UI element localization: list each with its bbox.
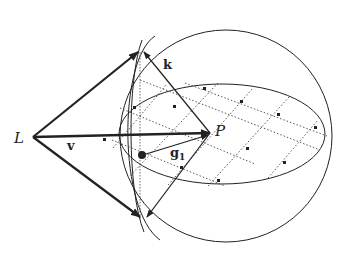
vector-v — [33, 133, 210, 137]
label-k: k — [163, 57, 173, 72]
label-L: L — [13, 129, 24, 147]
label-v: v — [66, 138, 75, 153]
label-P: P — [214, 122, 226, 140]
label-g1: g1 — [170, 145, 185, 162]
label-g1-base: g — [170, 145, 179, 160]
ewald-sphere-diagram: L P v k g1 — [0, 0, 342, 271]
label-g1-sub: 1 — [179, 152, 185, 162]
cone-top-edge — [33, 52, 138, 137]
